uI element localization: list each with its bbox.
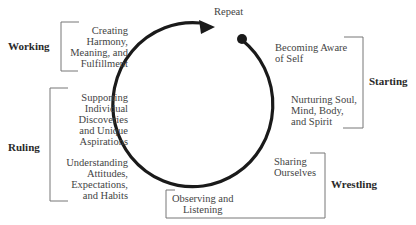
cycle-arc bbox=[113, 23, 273, 187]
item-supporting-discoveries: Supporting Individual Discoveries and Un… bbox=[56, 92, 128, 147]
item-observing-listening: Observing and Listening bbox=[172, 193, 234, 215]
phase-starting: Starting bbox=[369, 75, 408, 87]
phase-wrestling: Wrestling bbox=[331, 178, 377, 190]
item-sharing-ourselves: Sharing Ourselves bbox=[274, 156, 316, 178]
arrowhead-icon bbox=[199, 20, 215, 34]
start-dot-icon bbox=[237, 34, 247, 44]
repeat-label: Repeat bbox=[214, 6, 243, 17]
item-understanding-attitudes: Understanding Attitudes, Expectations, a… bbox=[50, 157, 128, 201]
item-becoming-aware: Becoming Aware of Self bbox=[275, 42, 347, 64]
item-nurturing-soul: Nurturing Soul, Mind, Body, and Spirit bbox=[291, 94, 357, 127]
phase-working: Working bbox=[8, 40, 50, 52]
phase-ruling: Ruling bbox=[8, 141, 40, 153]
item-creating-harmony: Creating Harmony, Meaning, and Fulfillme… bbox=[58, 25, 128, 69]
cycle-diagram: Repeat Becoming Aware of Self Nurturing … bbox=[0, 0, 416, 225]
